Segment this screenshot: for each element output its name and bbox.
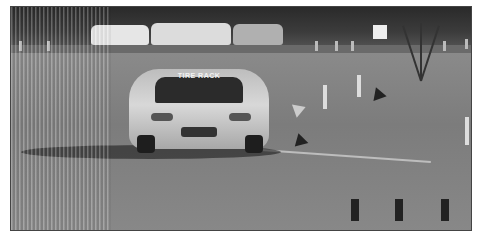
headlight-left [151,113,173,121]
pylon-foreground [395,199,403,221]
camera-tripod [406,21,436,81]
fence-post [351,41,354,51]
windshield-banner: TIRE RACK [161,72,237,79]
background-car-white-2 [151,23,231,45]
photograph: TIRE RACK [10,6,472,231]
headlight-right [229,113,251,121]
fence-post [335,41,338,51]
tire-front-right [245,135,263,153]
fence-post [443,41,446,51]
windshield [155,77,243,103]
fence-post [465,39,468,49]
grille [181,127,217,137]
race-car: TIRE RACK [129,69,269,149]
pylon [357,75,361,97]
scan-artifact-stripes [11,7,111,230]
tire-front-left [137,135,155,153]
fence-post [315,41,318,51]
pylon-foreground [441,199,449,221]
pylon-foreground [351,199,359,221]
sign-board [373,25,387,39]
pylon [323,85,327,109]
pylon [465,117,469,145]
background-car-silver [233,24,283,45]
